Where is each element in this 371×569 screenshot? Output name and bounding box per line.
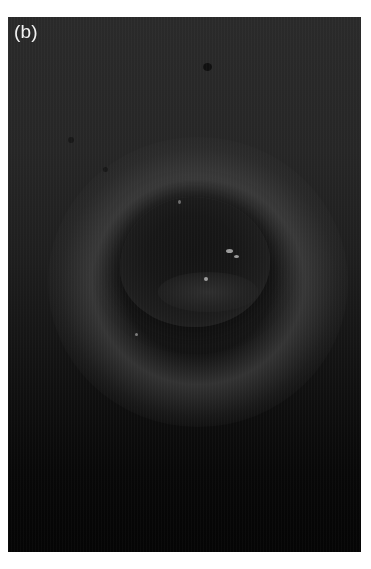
panel-label: (b): [14, 21, 38, 43]
film-grain: [8, 17, 361, 552]
figure-panel-b: (b): [8, 17, 361, 552]
